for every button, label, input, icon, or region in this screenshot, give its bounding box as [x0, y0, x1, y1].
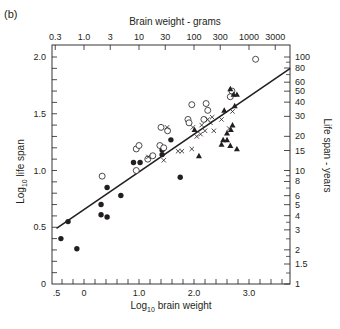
filled-circle-point	[98, 202, 103, 207]
right-tick-label: 15	[295, 146, 305, 156]
right-tick-label: 50	[295, 86, 305, 96]
x-tick-label: 1.0	[133, 288, 146, 298]
right-tick-label: 1	[295, 279, 300, 289]
top-tick-label: 1.0	[78, 32, 91, 42]
top-tick-label: 10	[134, 32, 144, 42]
y-tick-label: 2.0	[33, 52, 46, 62]
right-tick-label: 5	[295, 200, 300, 210]
right-tick-label: 10	[295, 166, 305, 176]
cross-point	[230, 109, 234, 113]
cross-point	[198, 132, 202, 136]
filled-circle-point	[178, 175, 183, 180]
right-tick-label: 20	[295, 131, 305, 141]
open-circle-point	[189, 102, 195, 108]
cross-point	[180, 149, 184, 153]
right-tick-label: 30	[295, 111, 305, 121]
right-tick-label: 8	[295, 176, 300, 186]
filled-circle-point	[104, 185, 109, 190]
cross-point	[219, 117, 223, 121]
x-tick-label: 3.0	[243, 288, 256, 298]
cross-point	[162, 158, 166, 162]
open-circle-point	[99, 173, 105, 179]
open-circle-point	[133, 168, 139, 174]
triangle-point	[224, 137, 230, 142]
filled-circle-point	[131, 160, 136, 165]
filled-circle-point	[58, 236, 63, 241]
cross-point	[203, 129, 207, 133]
triangle-point	[234, 146, 240, 151]
x-tick-label: 2.0	[188, 288, 201, 298]
triangle-point	[230, 122, 236, 127]
cross-point	[210, 115, 214, 119]
cross-point	[200, 123, 204, 127]
open-circle-point	[161, 145, 167, 151]
filled-circle-point	[137, 160, 142, 165]
triangle-point	[227, 143, 233, 148]
right-tick-label: 4	[295, 211, 300, 221]
filled-circle-point	[98, 212, 103, 217]
filled-circle-point	[159, 152, 164, 157]
open-circle-point	[205, 107, 211, 113]
right-tick-label: 3	[295, 225, 300, 235]
top-tick-label: 3	[108, 32, 113, 42]
right-tick-label: 2	[295, 245, 300, 255]
right-tick-label: 1.5	[295, 259, 308, 269]
filled-circle-point	[65, 219, 70, 224]
triangle-point	[221, 107, 227, 112]
cross-point	[212, 129, 216, 133]
open-circle-point	[150, 153, 156, 159]
filled-circle-point	[74, 246, 79, 251]
open-circle-point	[186, 120, 192, 126]
right-tick-label: 40	[295, 97, 305, 107]
top-tick-label: 30	[160, 32, 170, 42]
y-tick-label: 0.5	[33, 222, 46, 232]
open-circle-point	[253, 56, 259, 62]
right-tick-label: 80	[295, 63, 305, 73]
x-tick-label: .5	[53, 288, 61, 298]
open-circle-point	[136, 143, 142, 149]
filled-circle-point	[118, 193, 123, 198]
plot-frame	[52, 45, 290, 284]
top-tick-label: 1000	[239, 32, 259, 42]
top-tick-label: 0.3	[49, 32, 62, 42]
top-tick-label: 300	[213, 32, 228, 42]
cross-point	[190, 147, 194, 151]
y-tick-label: 0	[41, 279, 46, 289]
top-tick-label: 100	[186, 32, 201, 42]
top-tick-label: 3000	[265, 32, 285, 42]
scatter-plot: .501.02.03.000.51.01.52.00.31.0310301003…	[0, 0, 340, 329]
cross-point	[195, 134, 199, 138]
y-tick-label: 1.5	[33, 109, 46, 119]
y-tick-label: 1.0	[33, 166, 46, 176]
regression-line	[57, 68, 291, 228]
cross-point	[176, 149, 180, 153]
open-circle-point	[158, 124, 164, 130]
right-tick-label: 100	[295, 52, 310, 62]
filled-circle-point	[168, 137, 173, 142]
open-circle-point	[203, 101, 209, 107]
filled-circle-point	[104, 214, 109, 219]
x-tick-label: 0	[81, 288, 86, 298]
triangle-point	[196, 153, 202, 158]
